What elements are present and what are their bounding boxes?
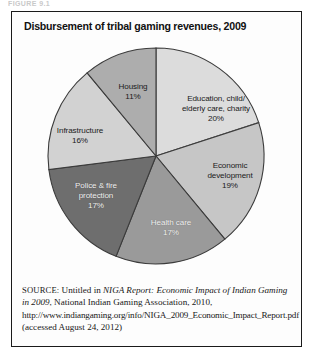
pie-chart: Education, child/ elderly care, charity … [12, 42, 301, 274]
source-label: SOURCE: [22, 285, 59, 295]
source-url[interactable]: http://www.indiangaming.org/info/NIGA_20… [22, 310, 299, 320]
source-caption: SOURCE: Untitled in NIGA Report: Economi… [22, 284, 292, 334]
pie-chart-svg [12, 42, 301, 274]
pie-label-education: Education, child/ elderly care, charity … [164, 94, 268, 125]
source-intro: Untitled in [59, 285, 103, 295]
scan-top-stub: FIGURE 9.1 [8, 0, 128, 8]
source-accessed: (accessed August 24, 2012) [22, 322, 122, 332]
pie-label-health-care: Health care 17% [132, 218, 210, 238]
pie-label-housing: Housing 11% [100, 82, 166, 102]
pie-label-police-fire-protection: Police & fire protection 17% [56, 181, 136, 212]
source-publisher: , National Indian Gaming Association, 20… [50, 297, 213, 307]
figure-title: Disbursement of tribal gaming revenues, … [24, 20, 280, 32]
pie-label-economic-development: Economic development 19% [188, 161, 272, 192]
pie-label-infrastructure: Infrastructure 16% [36, 126, 124, 146]
figure-frame: Disbursement of tribal gaming revenues, … [11, 11, 302, 347]
